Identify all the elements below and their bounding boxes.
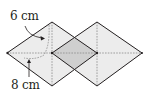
label-6cm: 6 cm <box>10 10 39 22</box>
label-8cm: 8 cm <box>11 79 40 91</box>
